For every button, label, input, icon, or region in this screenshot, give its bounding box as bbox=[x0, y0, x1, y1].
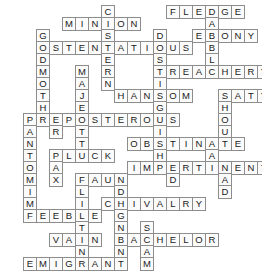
crossword-cell[interactable]: R bbox=[166, 65, 180, 79]
crossword-cell[interactable]: O bbox=[192, 233, 206, 247]
crossword-cell[interactable]: T bbox=[192, 161, 206, 175]
crossword-cell[interactable]: N bbox=[192, 137, 206, 151]
crossword-cell[interactable]: R bbox=[179, 161, 193, 175]
crossword-cell[interactable]: F bbox=[166, 5, 180, 19]
crossword-cell[interactable]: Y bbox=[257, 65, 262, 79]
crossword-cell[interactable]: E bbox=[192, 5, 206, 19]
crossword-cell[interactable]: E bbox=[231, 137, 245, 151]
crossword-cell[interactable]: A bbox=[153, 197, 167, 211]
crossword-cell[interactable]: N bbox=[231, 29, 245, 43]
crossword-cell[interactable]: E bbox=[49, 209, 63, 223]
crossword-cell[interactable]: I bbox=[179, 137, 193, 151]
crossword-cell[interactable]: O bbox=[140, 113, 154, 127]
crossword-cell[interactable]: O bbox=[166, 89, 180, 103]
crossword-cell[interactable]: I bbox=[75, 17, 89, 31]
crossword-cell[interactable]: P bbox=[62, 113, 76, 127]
crossword-cell[interactable]: S bbox=[179, 41, 193, 55]
crossword-cell[interactable]: R bbox=[75, 257, 89, 271]
crossword-cell[interactable]: Y bbox=[244, 29, 258, 43]
crossword-cell[interactable]: L bbox=[166, 197, 180, 211]
crossword-cell[interactable]: E bbox=[231, 65, 245, 79]
crossword-cell[interactable]: A bbox=[62, 233, 76, 247]
crossword-cell[interactable]: N bbox=[140, 89, 154, 103]
crossword-cell[interactable]: E bbox=[192, 29, 206, 43]
crossword-cell[interactable]: E bbox=[231, 161, 245, 175]
crossword-cell[interactable]: C bbox=[101, 197, 115, 211]
crossword-cell[interactable]: E bbox=[88, 209, 102, 223]
crossword-cell[interactable]: A bbox=[114, 41, 128, 55]
crossword-cell[interactable]: Y bbox=[257, 89, 262, 103]
crossword-cell[interactable]: I bbox=[205, 161, 219, 175]
crossword-cell[interactable]: X bbox=[49, 173, 63, 187]
crossword-cell[interactable]: M bbox=[140, 257, 154, 271]
crossword-cell[interactable]: U bbox=[101, 173, 115, 187]
crossword-cell[interactable]: T bbox=[127, 41, 141, 55]
crossword-cell[interactable]: C bbox=[205, 65, 219, 79]
crossword-cell[interactable]: T bbox=[114, 257, 128, 271]
crossword-cell[interactable]: P bbox=[153, 161, 167, 175]
crossword-cell[interactable]: R bbox=[244, 65, 258, 79]
crossword-cell[interactable]: B bbox=[62, 209, 76, 223]
crossword-cell[interactable]: S bbox=[166, 113, 180, 127]
crossword-cell[interactable]: U bbox=[75, 149, 89, 163]
crossword-cell[interactable]: B bbox=[140, 137, 154, 151]
crossword-cell[interactable]: M bbox=[36, 257, 50, 271]
crossword-cell[interactable]: O bbox=[114, 17, 128, 31]
crossword-cell[interactable]: R bbox=[205, 233, 219, 247]
crossword-cell[interactable]: R bbox=[179, 197, 193, 211]
crossword-cell[interactable]: N bbox=[101, 257, 115, 271]
crossword-cell[interactable]: I bbox=[127, 197, 141, 211]
crossword-cell[interactable]: E bbox=[166, 233, 180, 247]
crossword-cell[interactable]: H bbox=[153, 233, 167, 247]
crossword-cell[interactable]: G bbox=[218, 5, 232, 19]
crossword-cell[interactable]: R bbox=[49, 125, 63, 139]
crossword-cell[interactable]: T bbox=[101, 113, 115, 127]
crossword-cell[interactable]: N bbox=[244, 161, 258, 175]
crossword-cell[interactable]: E bbox=[114, 113, 128, 127]
crossword-cell[interactable]: N bbox=[101, 77, 115, 91]
crossword-cell[interactable]: L bbox=[179, 233, 193, 247]
crossword-cell[interactable]: V bbox=[140, 197, 154, 211]
crossword-cell[interactable]: I bbox=[49, 257, 63, 271]
crossword-cell[interactable]: D bbox=[218, 185, 232, 199]
crossword-cell[interactable]: E bbox=[75, 41, 89, 55]
crossword-cell[interactable]: T bbox=[244, 89, 258, 103]
crossword-cell[interactable]: N bbox=[88, 41, 102, 55]
crossword-cell[interactable]: T bbox=[218, 137, 232, 151]
crossword-cell[interactable]: K bbox=[101, 149, 115, 163]
crossword-cell[interactable]: N bbox=[88, 17, 102, 31]
crossword-cell[interactable]: I bbox=[127, 161, 141, 175]
crossword-cell[interactable]: M bbox=[179, 89, 193, 103]
crossword-cell[interactable]: A bbox=[231, 89, 245, 103]
crossword-cell[interactable]: S bbox=[88, 113, 102, 127]
crossword-cell[interactable]: N bbox=[127, 17, 141, 31]
crossword-cell[interactable]: U bbox=[166, 41, 180, 55]
crossword-cell[interactable]: E bbox=[179, 65, 193, 79]
crossword-cell[interactable]: T bbox=[62, 41, 76, 55]
crossword-cell[interactable]: E bbox=[231, 5, 245, 19]
crossword-cell[interactable]: C bbox=[88, 149, 102, 163]
crossword-cell[interactable]: A bbox=[88, 257, 102, 271]
crossword-cell[interactable]: H bbox=[114, 89, 128, 103]
crossword-cell[interactable]: E bbox=[23, 257, 37, 271]
crossword-cell[interactable]: F bbox=[23, 209, 37, 223]
crossword-cell[interactable]: I bbox=[140, 41, 154, 55]
crossword-cell[interactable]: R bbox=[127, 113, 141, 127]
crossword-cell[interactable]: L bbox=[179, 5, 193, 19]
crossword-cell[interactable]: M bbox=[62, 17, 76, 31]
crossword-cell[interactable]: Y bbox=[192, 197, 206, 211]
crossword-cell[interactable]: R bbox=[36, 113, 50, 127]
crossword-cell[interactable]: A bbox=[192, 65, 206, 79]
crossword-cell[interactable]: S bbox=[49, 41, 63, 55]
crossword-cell[interactable]: L bbox=[62, 149, 76, 163]
crossword-cell[interactable]: D bbox=[166, 173, 180, 187]
crossword-cell[interactable]: A bbox=[88, 173, 102, 187]
crossword-cell[interactable]: H bbox=[218, 65, 232, 79]
crossword-cell[interactable]: M bbox=[140, 161, 154, 175]
crossword-cell[interactable]: T bbox=[257, 161, 262, 175]
crossword-cell[interactable]: A bbox=[127, 89, 141, 103]
crossword-cell[interactable]: V bbox=[49, 233, 63, 247]
crossword-cell[interactable]: G bbox=[62, 257, 76, 271]
crossword-cell[interactable]: A bbox=[127, 233, 141, 247]
crossword-cell[interactable]: O bbox=[218, 29, 232, 43]
